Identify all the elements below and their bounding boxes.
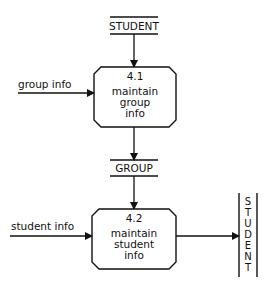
process-label-line3: info	[124, 249, 144, 261]
store-letter: E	[245, 240, 251, 251]
store-letter: T	[244, 207, 252, 218]
store-letter: N	[244, 251, 251, 262]
process-4-2: 4.2 maintain student info	[92, 209, 176, 269]
data-store-label: GROUP	[115, 162, 153, 174]
data-store-group: GROUP	[110, 160, 158, 176]
flow-group-info: group info	[18, 78, 94, 93]
flow-label: group info	[18, 78, 72, 90]
process-4-1: 4.1 maintain group info	[94, 67, 176, 127]
store-letter: S	[245, 196, 251, 207]
store-letter: D	[244, 229, 252, 240]
process-number: 4.2	[126, 212, 143, 224]
data-store-label: STUDENT	[109, 20, 159, 32]
flow-label: student info	[11, 220, 74, 232]
store-letter: T	[244, 262, 252, 273]
process-label-line3: info	[125, 107, 145, 119]
store-letter: U	[244, 218, 251, 229]
flow-student-info: student info	[10, 220, 92, 236]
data-store-student-right: S T U D E N T	[239, 193, 257, 277]
process-number: 4.1	[127, 70, 144, 82]
dfd-canvas: STUDENT 4.1 maintain group info group in…	[0, 0, 271, 291]
data-store-student-top: STUDENT	[109, 17, 159, 34]
